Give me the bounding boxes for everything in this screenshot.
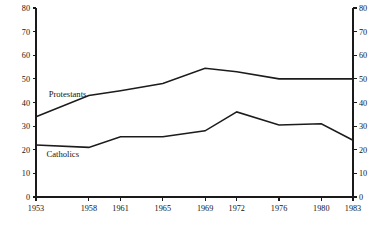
- y-axis-tick-label-left: 70: [22, 28, 30, 37]
- y-axis-tick-label-right: 50: [359, 75, 367, 84]
- x-axis-tick-label: 1958: [81, 204, 97, 213]
- x-axis-tick-label: 1969: [197, 204, 213, 213]
- right-axis-tick-labels: 01020304050607080: [359, 4, 367, 202]
- y-axis-tick-label-left: 30: [22, 122, 30, 131]
- series-line-catholics: [36, 112, 353, 147]
- y-axis-tick-label-right: 30: [359, 122, 367, 131]
- left-axis-tick-labels: 01020304050607080: [22, 4, 30, 202]
- x-axis-tick-label: 1972: [229, 204, 245, 213]
- x-axis-tick-label: 1983: [345, 204, 361, 213]
- bottom-axis-ticks: [36, 197, 353, 201]
- x-axis-tick-label: 1980: [313, 204, 329, 213]
- y-axis-tick-label-right: 40: [359, 99, 367, 108]
- y-axis-tick-label-left: 80: [22, 4, 30, 13]
- y-axis-tick-label-right: 20: [359, 146, 367, 155]
- y-axis-tick-label-left: 0: [26, 193, 30, 202]
- chart-canvas: 01020304050607080 01020304050607080 1953…: [0, 0, 386, 235]
- axes: [36, 8, 353, 197]
- y-axis-tick-label-left: 50: [22, 75, 30, 84]
- y-axis-tick-label-left: 60: [22, 51, 30, 60]
- x-axis-tick-label: 1976: [271, 204, 287, 213]
- x-axis-tick-label: 1965: [155, 204, 171, 213]
- data-series-group: [36, 68, 353, 147]
- y-axis-tick-label-right: 80: [359, 4, 367, 13]
- y-axis-tick-label-left: 40: [22, 99, 30, 108]
- y-axis-tick-label-right: 0: [359, 193, 363, 202]
- x-axis-tick-label: 1961: [112, 204, 128, 213]
- y-axis-tick-label-right: 70: [359, 28, 367, 37]
- series-label-catholics: Catholics: [47, 149, 80, 159]
- series-label-protestants: Protestants: [49, 89, 87, 99]
- y-axis-tick-label-left: 20: [22, 146, 30, 155]
- y-axis-tick-label-right: 10: [359, 169, 367, 178]
- y-axis-tick-label-left: 10: [22, 169, 30, 178]
- line-chart: 01020304050607080 01020304050607080 1953…: [0, 0, 386, 235]
- x-axis-tick-labels: 195319581961196519691972197619801983: [28, 204, 361, 213]
- y-axis-tick-label-right: 60: [359, 51, 367, 60]
- x-axis-tick-label: 1953: [28, 204, 44, 213]
